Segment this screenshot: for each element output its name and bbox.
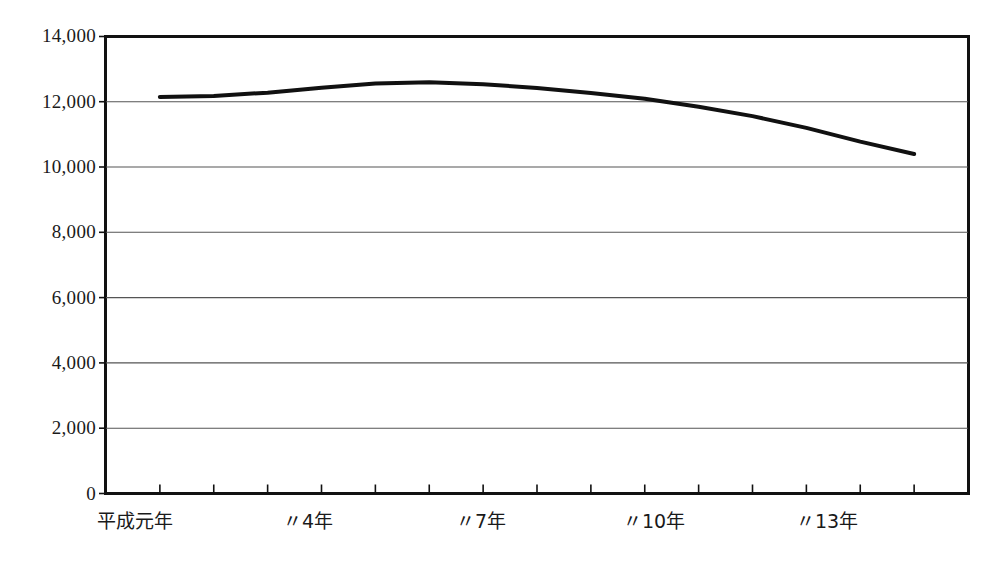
y-axis-label-0: 0 — [12, 484, 96, 503]
x-axis-label-heisei-10: 〃10年 — [594, 511, 714, 531]
plot-frame — [106, 37, 969, 494]
plot-area — [0, 0, 1001, 569]
x-axis-label-heisei-4: 〃4年 — [248, 511, 368, 531]
x-axis-label-heisei-7: 〃7年 — [421, 511, 541, 531]
y-axis-label-4000: 4,000 — [12, 353, 96, 372]
y-axis-label-12000: 12,000 — [12, 92, 96, 111]
y-axis-label-2000: 2,000 — [12, 418, 96, 437]
y-axis-label-14000: 14,000 — [12, 26, 96, 45]
y-axis-label-10000: 10,000 — [12, 157, 96, 176]
x-axis-label-heisei-1: 平成元年 — [75, 511, 195, 531]
x-axis-label-heisei-13: 〃13年 — [767, 511, 887, 531]
line-chart: 14,000 12,000 10,000 8,000 6,000 4,000 2… — [0, 0, 1001, 569]
y-axis-label-6000: 6,000 — [12, 288, 96, 307]
y-axis-label-8000: 8,000 — [12, 222, 96, 241]
